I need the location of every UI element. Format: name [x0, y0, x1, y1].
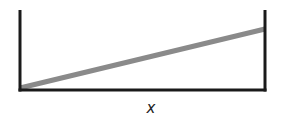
container-diagram — [0, 0, 282, 122]
x-axis-label: x — [143, 100, 159, 116]
slope-line — [20, 29, 265, 88]
